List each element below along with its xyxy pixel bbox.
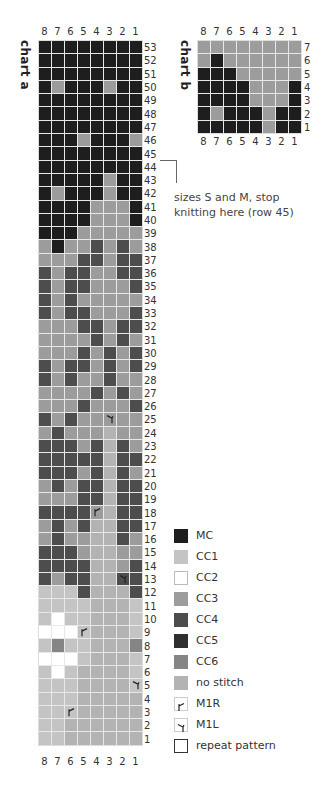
chart-a-cell — [130, 520, 142, 532]
row-number: 16 — [144, 533, 157, 546]
chart-a-cell — [91, 280, 103, 292]
row-number: 11 — [144, 599, 157, 612]
chart-a-cell — [52, 613, 64, 625]
chart-a-cell — [91, 533, 103, 545]
chart-a-cell — [78, 227, 90, 239]
chart-a-cell — [91, 161, 103, 173]
column-number: 6 — [64, 756, 77, 767]
chart-a-cell — [52, 626, 64, 638]
chart-a-cell — [91, 653, 103, 665]
chart-a-cell — [130, 121, 142, 133]
chart-a-cell — [39, 653, 51, 665]
chart-a-cell — [52, 586, 64, 598]
chart-a-cell — [65, 174, 77, 186]
chart-a-cell — [52, 227, 64, 239]
chart-a-cell — [39, 240, 51, 252]
chart-a-cell — [52, 107, 64, 119]
chart-a-cell — [65, 639, 77, 651]
chart-a-cell — [39, 679, 51, 691]
column-number: 7 — [51, 26, 64, 37]
chart-a-cell — [78, 467, 90, 479]
chart-b-cell — [263, 81, 275, 93]
chart-a-title: chart a — [18, 40, 32, 90]
column-number: 1 — [288, 136, 301, 147]
chart-a-cell — [65, 107, 77, 119]
chart-a-cell — [104, 533, 116, 545]
chart-a-cell — [78, 68, 90, 80]
chart-a-cell — [104, 81, 116, 93]
chart-b-cell — [263, 94, 275, 106]
row-number: 18 — [144, 506, 157, 519]
legend-label: CC1 — [196, 550, 218, 563]
m1r-icon — [65, 706, 77, 718]
chart-a-cell — [91, 107, 103, 119]
chart-a-cell — [91, 493, 103, 505]
chart-b-cell — [211, 81, 223, 93]
chart-a-cell — [52, 147, 64, 159]
chart-a-cell — [117, 613, 129, 625]
chart-a-cell — [78, 546, 90, 558]
row-number: 20 — [144, 480, 157, 493]
column-number: 1 — [288, 26, 301, 37]
chart-a-cell — [39, 280, 51, 292]
legend-label: CC2 — [196, 571, 218, 584]
chart-a-cell — [65, 560, 77, 572]
chart-a-column-labels-bottom: 87654321 — [38, 756, 142, 767]
chart-a-cell — [117, 147, 129, 159]
chart-a-cell — [117, 467, 129, 479]
m1l-icon — [104, 413, 116, 425]
chart-a-cell — [130, 107, 142, 119]
row-number: 5 — [304, 68, 310, 81]
chart-a-cell — [104, 240, 116, 252]
m1r-icon — [78, 626, 90, 638]
column-number: 5 — [77, 26, 90, 37]
chart-a-cell — [52, 467, 64, 479]
chart-b-cell — [211, 121, 223, 133]
column-number: 6 — [64, 26, 77, 37]
chart-a-cell — [130, 147, 142, 159]
chart-a-cell — [104, 732, 116, 744]
chart-a-cell — [52, 134, 64, 146]
chart-a-cell — [130, 679, 142, 691]
chart-a-cell — [39, 732, 51, 744]
chart-a-cell — [130, 267, 142, 279]
chart-a-cell — [104, 347, 116, 359]
chart-a-cell — [130, 334, 142, 346]
row-number: 49 — [144, 94, 157, 107]
chart-a-cell — [117, 121, 129, 133]
chart-a-cell — [52, 161, 64, 173]
chart-a-cell — [91, 453, 103, 465]
row-45-bracket — [160, 160, 177, 183]
chart-a-cell — [130, 573, 142, 585]
chart-a-cell — [91, 706, 103, 718]
chart-a-cell — [78, 81, 90, 93]
chart-a-cell — [91, 413, 103, 425]
chart-a-cell — [130, 506, 142, 518]
chart-a-cell — [117, 626, 129, 638]
chart-a-cell — [78, 506, 90, 518]
chart-a-cell — [104, 334, 116, 346]
chart-a-cell — [130, 427, 142, 439]
chart-a-cell — [117, 294, 129, 306]
color-swatch — [174, 676, 188, 690]
chart-a-cell — [52, 280, 64, 292]
chart-a-cell — [78, 94, 90, 106]
row-number: 19 — [144, 493, 157, 506]
chart-a-cell — [130, 706, 142, 718]
chart-a-cell — [130, 586, 142, 598]
row-number: 37 — [144, 254, 157, 267]
chart-a-cell — [130, 599, 142, 611]
chart-a-cell — [39, 68, 51, 80]
chart-b-cell — [250, 81, 262, 93]
chart-b-cell — [237, 107, 249, 119]
chart-a-cell — [78, 373, 90, 385]
chart-a-cell — [117, 347, 129, 359]
row-number: 51 — [144, 68, 157, 81]
chart-a-cell — [65, 719, 77, 731]
chart-a-cell — [52, 254, 64, 266]
chart-a-row-labels: 5352515049484746454443424140393837363534… — [144, 41, 157, 746]
chart-b-cell — [198, 121, 210, 133]
legend-label: CC5 — [196, 634, 218, 647]
chart-a-cell — [39, 294, 51, 306]
row-number: 41 — [144, 201, 157, 214]
